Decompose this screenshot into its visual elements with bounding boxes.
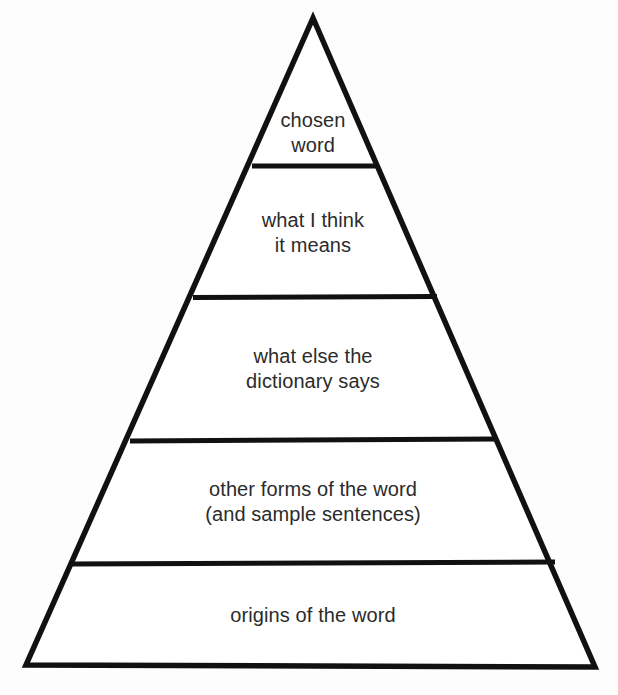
tier-divider-3 (130, 439, 497, 441)
tier-divider-4 (70, 562, 555, 564)
pyramid-outline-graphic (0, 0, 618, 695)
tier-divider-2 (193, 297, 437, 298)
pyramid-diagram: chosen word what I think it means what e… (0, 0, 618, 695)
pyramid-outline (26, 18, 595, 667)
